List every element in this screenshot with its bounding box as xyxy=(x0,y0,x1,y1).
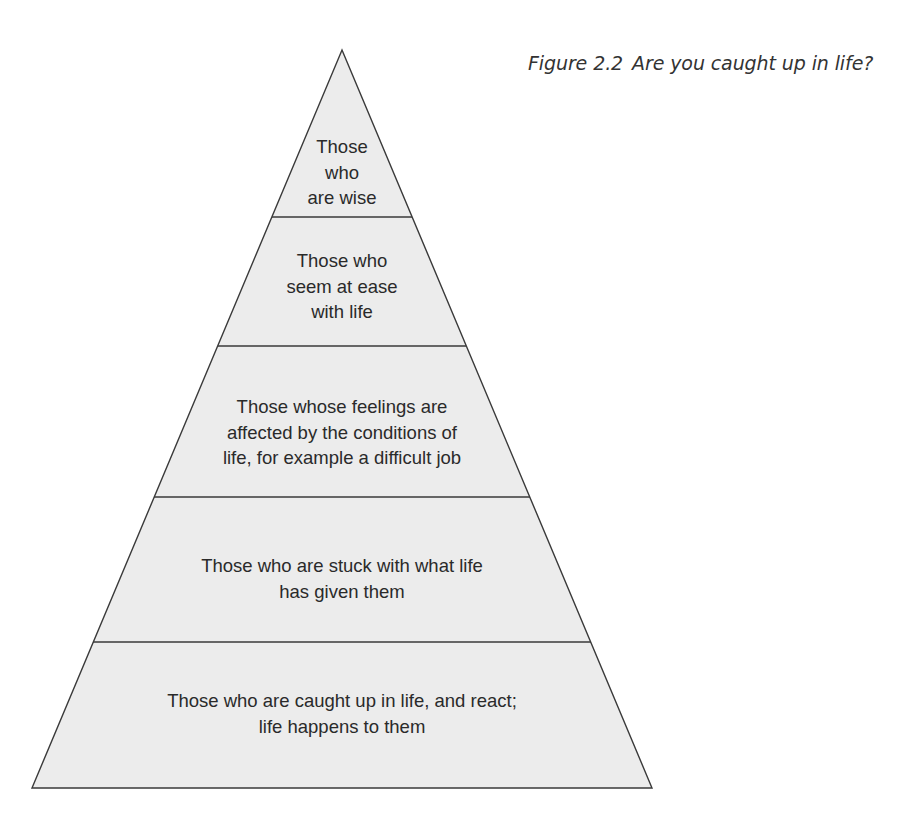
level-5-line-1: Those who are caught up in life, and rea… xyxy=(0,688,684,714)
pyramid-level-3-affected: Those whose feelings are affected by the… xyxy=(0,394,684,471)
level-1-line-1: Those xyxy=(0,134,684,160)
level-3-line-3: life, for example a difficult job xyxy=(0,445,684,471)
level-2-line-2: seem at ease xyxy=(0,273,684,299)
level-4-line-1: Those who are stuck with what life xyxy=(0,553,684,579)
level-2-line-3: with life xyxy=(0,299,684,325)
level-1-line-2: who xyxy=(0,159,684,185)
level-2-line-1: Those who xyxy=(0,248,684,274)
level-5-line-2: life happens to them xyxy=(0,713,684,739)
figure-label: Figure 2.2 xyxy=(528,52,623,74)
figure-title: Are you caught up in life? xyxy=(632,52,873,74)
level-3-line-1: Those whose feelings are xyxy=(0,394,684,420)
level-1-line-3: are wise xyxy=(0,185,684,211)
level-3-line-2: affected by the conditions of xyxy=(0,419,684,445)
level-4-line-2: has given them xyxy=(0,578,684,604)
figure-caption: Figure 2.2Are you caught up in life? xyxy=(528,52,873,74)
pyramid-level-5-caught-up: Those who are caught up in life, and rea… xyxy=(0,688,684,739)
pyramid-level-4-stuck: Those who are stuck with what life has g… xyxy=(0,553,684,604)
pyramid-level-2-at-ease: Those who seem at ease with life xyxy=(0,248,684,325)
pyramid-level-1-wise: Those who are wise xyxy=(0,134,684,211)
